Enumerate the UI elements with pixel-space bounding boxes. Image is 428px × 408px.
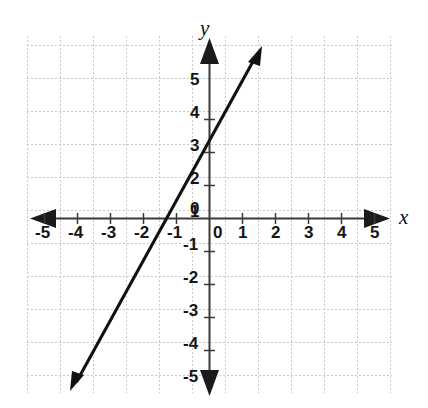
coordinate-plane-graph: -5 -4 -3 -2 -1 0 1 2 3 4 5 5 4 3 2 1 0 -…: [0, 0, 428, 408]
y-tick-label-3: 3: [190, 137, 199, 154]
y-tick-label-5: 5: [190, 71, 199, 88]
x-tick-label--5: -5: [35, 224, 50, 241]
x-tick-label-2: 2: [271, 224, 280, 241]
x-tick-label--2: -2: [134, 224, 149, 241]
y-tick-label--4: -4: [183, 335, 198, 352]
line-upper-arrowhead: [248, 46, 262, 66]
y-tick-label-2: 2: [190, 170, 199, 187]
x-axis-name-label: x: [399, 207, 408, 228]
graph-canvas: [0, 0, 428, 408]
y-axis-down-arrowhead: [200, 370, 219, 396]
x-tick-label-4: 4: [337, 224, 346, 241]
x-tick-label--4: -4: [68, 224, 83, 241]
x-tick-label-3: 3: [304, 224, 313, 241]
x-tick-label-5: 5: [370, 224, 379, 241]
y-tick-label--3: -3: [183, 302, 198, 319]
x-tick-label--1: -1: [167, 224, 182, 241]
x-tick-label--3: -3: [101, 224, 116, 241]
x-tick-label-1: 1: [238, 224, 247, 241]
y-axis-up-arrowhead: [200, 38, 219, 64]
y-tick-label--2: -2: [183, 269, 198, 286]
y-tick-label--5: -5: [183, 368, 198, 385]
y-tick-label-4: 4: [190, 104, 199, 121]
y-axis-name-label: y: [200, 18, 209, 39]
x-tick-label-0: 0: [213, 224, 222, 241]
y-tick-label--1: -1: [183, 236, 198, 253]
y-tick-label-0: 0: [190, 200, 199, 217]
